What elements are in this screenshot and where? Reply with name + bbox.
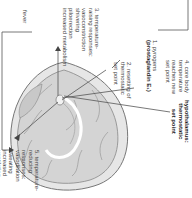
fever-diagram: hypothalamus: thermostatic set point 4. … — [0, 0, 192, 198]
fever-label: fever — [22, 10, 28, 23]
step-3-label: 3. temperature- raising responses: vasoc… — [62, 8, 100, 66]
step-1-label: 1. pyrogens (prostaglandin E₁) — [145, 40, 158, 92]
hypothalamus-label: hypothalamus: thermostatic set point — [171, 100, 190, 143]
step-5-label: 5. temperature- reducing responses: vaso… — [0, 150, 40, 191]
step-4-label: 4. core body temperature reaches new set… — [164, 60, 190, 94]
step-2-label: 2. resetting of thermostatic set point — [113, 62, 132, 98]
